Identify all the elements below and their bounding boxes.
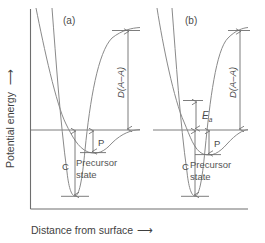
x-axis-label: Distance from surface (31, 224, 133, 236)
y-axis-label-group: Potential energy ⟶ (4, 69, 16, 168)
dissociation-label-a: D(A–A) (115, 67, 126, 98)
precursor-label-a: P (98, 137, 104, 148)
precursor-state-line2-a: state (76, 169, 97, 180)
activation-energy-subscript-b: a (209, 116, 213, 123)
precursor-state-line1-a: Precursor (76, 157, 117, 168)
y-axis-label: Potential energy (4, 91, 16, 168)
panel-b-annotations: (b) C P Ea D(A–A) Precursor state (182, 15, 240, 195)
precursor-label-b: P (214, 138, 220, 149)
y-axis-arrow: ⟶ (4, 69, 16, 85)
activation-energy-label-b: Ea (202, 110, 213, 123)
precursor-state-line2-b: state (190, 171, 211, 182)
chemisorption-label-a: C (62, 161, 69, 172)
dissociation-label-b: D(A–A) (227, 67, 238, 98)
figure-canvas: Potential energy ⟶ Distance from surface… (0, 0, 265, 243)
panel-b-label: (b) (185, 15, 197, 26)
axis-group (31, 9, 249, 209)
precursor-state-line1-b: Precursor (190, 159, 231, 170)
x-axis-arrow: ⟶ (137, 224, 153, 236)
panel-a-annotations: (a) C P D(A–A) Precursor state (62, 15, 128, 195)
potential-energy-figure: Potential energy ⟶ Distance from surface… (0, 0, 265, 243)
panel-a-label: (a) (63, 15, 75, 26)
x-axis-label-group: Distance from surface ⟶ (31, 224, 153, 236)
chemisorption-label-b: C (182, 161, 189, 172)
